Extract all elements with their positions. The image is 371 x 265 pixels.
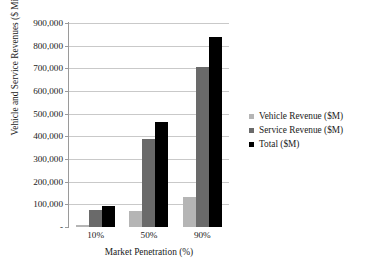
x-axis-title: Market Penetration (%) bbox=[69, 247, 229, 257]
x-axis-tick-label: 90% bbox=[176, 230, 229, 240]
y-axis-tick-label: 600,000 bbox=[33, 86, 63, 96]
y-axis-tick-label: 400,000 bbox=[33, 131, 63, 141]
legend-item[interactable]: Service Revenue ($M) bbox=[249, 123, 343, 137]
x-axis-tick-labels: 10%50%90% bbox=[69, 230, 229, 240]
bar-service bbox=[89, 210, 102, 227]
legend-swatch-icon bbox=[249, 142, 254, 147]
legend-item-label: Service Revenue ($M) bbox=[259, 125, 343, 135]
legend-swatch-icon bbox=[249, 114, 254, 119]
y-axis-tick-label: 500,000 bbox=[33, 109, 63, 119]
bar-vehicle bbox=[129, 211, 142, 227]
y-axis-tick-label: 300,000 bbox=[33, 154, 63, 164]
legend-item[interactable]: Total ($M) bbox=[249, 137, 343, 151]
legend-item-label: Total ($M) bbox=[259, 139, 299, 149]
legend-item[interactable]: Vehicle Revenue ($M) bbox=[249, 109, 343, 123]
bar-group bbox=[176, 23, 229, 227]
plot-area: 900,000800,000700,000600,000500,000400,0… bbox=[69, 23, 229, 227]
legend: Vehicle Revenue ($M)Service Revenue ($M)… bbox=[249, 109, 343, 151]
y-axis-tick-label: 100,000 bbox=[33, 199, 63, 209]
y-axis-tick-label: - bbox=[60, 222, 63, 232]
legend-item-label: Vehicle Revenue ($M) bbox=[259, 111, 343, 121]
chart-title-cropped: Vehicle and Service Revenues bbox=[0, 0, 371, 7]
bar-total bbox=[209, 37, 222, 227]
x-axis-tick-label: 10% bbox=[69, 230, 122, 240]
y-axis-tick-label: 700,000 bbox=[33, 63, 63, 73]
y-axis-title: Vehicle and Service Revenues ($ Million) bbox=[10, 0, 20, 152]
bar-vehicle bbox=[76, 225, 89, 227]
bar-service bbox=[142, 139, 155, 227]
y-axis-tick-label: 900,000 bbox=[33, 18, 63, 28]
chart-figure: Vehicle and Service Revenues Vehicle and… bbox=[0, 0, 371, 265]
bar-total bbox=[155, 122, 168, 227]
y-axis-tick-label: 800,000 bbox=[33, 41, 63, 51]
chart-title-text: Vehicle and Service Revenues bbox=[126, 0, 246, 1]
x-axis-tick-label: 50% bbox=[122, 230, 175, 240]
y-axis-tick bbox=[65, 227, 69, 228]
bar-total bbox=[102, 206, 115, 227]
bar-service bbox=[196, 67, 209, 227]
bar-group bbox=[122, 23, 175, 227]
bar-vehicle bbox=[183, 197, 196, 227]
y-axis-tick-label: 200,000 bbox=[33, 177, 63, 187]
legend-swatch-icon bbox=[249, 128, 254, 133]
bar-groups bbox=[69, 23, 229, 227]
bar-group bbox=[69, 23, 122, 227]
